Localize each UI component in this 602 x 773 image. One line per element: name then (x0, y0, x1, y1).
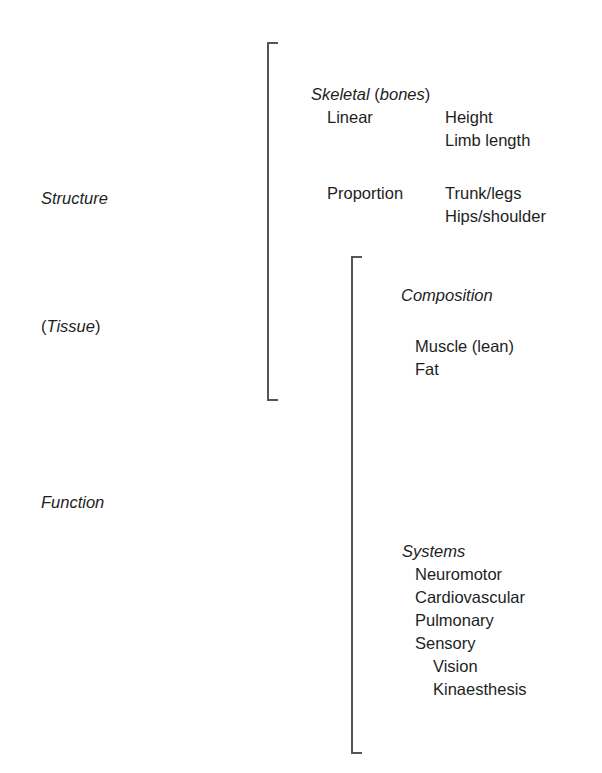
systems-subitem-kinaesthesis: Kinaesthesis (433, 681, 527, 698)
skeletal-category-proportion: Proportion (327, 185, 403, 202)
label-structure: Structure (41, 190, 108, 207)
systems-heading: Systems (402, 543, 465, 560)
composition-heading: Composition (401, 287, 493, 304)
skeletal-heading-text: Skeletal (311, 85, 370, 103)
skeletal-item-height: Height (445, 109, 493, 126)
structure-bracket (267, 42, 278, 401)
skeletal-heading-sub: bones (380, 85, 425, 103)
systems-item-cardiovascular: Cardiovascular (415, 589, 525, 606)
composition-item-muscle: Muscle (lean) (415, 338, 514, 355)
systems-subitem-vision: Vision (433, 658, 478, 675)
function-bracket (351, 256, 362, 754)
systems-item-neuromotor: Neuromotor (415, 566, 502, 583)
systems-item-pulmonary: Pulmonary (415, 612, 494, 629)
skeletal-paren-close: ) (425, 85, 431, 103)
systems-item-sensory: Sensory (415, 635, 476, 652)
tissue-text: Tissue (47, 317, 95, 335)
skeletal-item-hips-shoulder: Hips/shoulder (445, 208, 546, 225)
composition-item-fat: Fat (415, 361, 439, 378)
skeletal-item-trunk-legs: Trunk/legs (445, 185, 521, 202)
skeletal-category-linear: Linear (327, 109, 373, 126)
skeletal-item-limb-length: Limb length (445, 132, 530, 149)
skeletal-paren-open: ( (370, 85, 380, 103)
skeletal-heading: Skeletal (bones) (311, 86, 430, 103)
tissue-paren-close: ) (95, 317, 101, 335)
label-tissue: (Tissue) (41, 318, 100, 335)
label-function: Function (41, 494, 104, 511)
